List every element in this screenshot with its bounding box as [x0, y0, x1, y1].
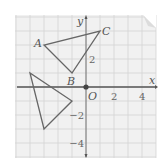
origin-dot [83, 84, 88, 89]
y-axis-label: y [76, 15, 84, 28]
diagram-stage: x y O 242−2−4 A B C [0, 0, 162, 168]
vertex-label-c: C [102, 25, 111, 38]
y-tick-label: −4 [69, 138, 84, 149]
vertex-label-b: B [66, 75, 75, 88]
coordinate-plane: x y O 242−2−4 A B C [0, 0, 162, 168]
vertex-label-a: A [33, 37, 42, 50]
x-tick-label: 4 [139, 91, 145, 102]
y-tick-label: 2 [89, 54, 95, 65]
x-axis-arrow-icon [155, 85, 158, 89]
x-axis-label: x [149, 74, 156, 87]
y-tick-label: −2 [69, 110, 84, 121]
origin-label: O [88, 90, 97, 103]
x-tick-label: 2 [111, 91, 117, 102]
